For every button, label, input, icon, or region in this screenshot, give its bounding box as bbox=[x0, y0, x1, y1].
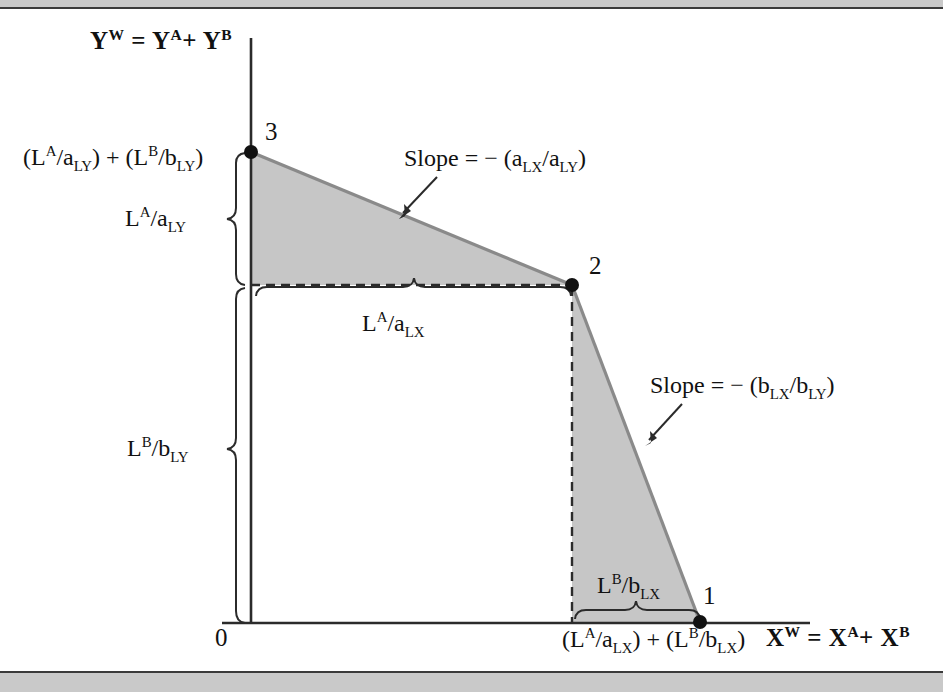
y-axis-title: YW = YA+ YB bbox=[90, 28, 232, 53]
y-intercept-label: (LA/aLY) + (LB/bLY) bbox=[23, 145, 203, 169]
brace-lb-bly-shape bbox=[227, 288, 245, 623]
slope-upper-label: Slope = − (aLX/aLY) bbox=[404, 146, 586, 170]
plot-graphics bbox=[0, 0, 943, 692]
slope-upper-arrow bbox=[399, 177, 437, 219]
point-2-label: 2 bbox=[589, 253, 602, 278]
point-1-label: 1 bbox=[703, 583, 716, 608]
slope-lower-label: Slope = − (bLX/bLY) bbox=[650, 373, 835, 397]
brace-lb-blx-label: LB/bLX bbox=[597, 573, 660, 597]
slope-lower-arrow bbox=[645, 404, 682, 446]
figure-canvas: YW = YA+ YB (LA/aLY) + (LB/bLY) 3 2 1 LA… bbox=[0, 0, 943, 692]
point-3-marker bbox=[244, 145, 258, 159]
x-intercept-label: (LA/aLX) + (LB/bLX) bbox=[562, 627, 745, 651]
brace-la-aly-shape bbox=[227, 153, 245, 285]
point-2-marker bbox=[565, 278, 579, 292]
brace-la-aly-label: LA/aLY bbox=[125, 206, 186, 230]
x-axis-title: XW = XA+ XB bbox=[766, 625, 910, 650]
brace-la-alx-label: LA/aLX bbox=[362, 311, 425, 335]
brace-lb-bly-label: LB/bLY bbox=[127, 436, 189, 460]
point-3-label: 3 bbox=[265, 119, 278, 144]
origin-label: 0 bbox=[215, 625, 228, 650]
